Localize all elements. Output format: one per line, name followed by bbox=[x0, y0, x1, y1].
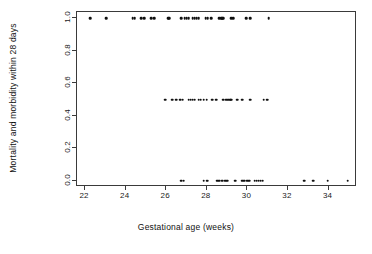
y-axis-title: Mortality and morbidity within 28 days bbox=[8, 23, 18, 172]
y-axis-tick bbox=[72, 82, 76, 83]
data-point bbox=[326, 179, 329, 182]
data-point bbox=[232, 17, 235, 20]
data-point bbox=[215, 98, 218, 101]
data-point bbox=[168, 17, 171, 20]
data-point bbox=[206, 98, 209, 101]
y-axis-tick bbox=[72, 50, 76, 51]
x-axis-tick bbox=[206, 186, 207, 190]
x-axis-tick bbox=[328, 186, 329, 190]
data-point bbox=[105, 17, 108, 20]
data-point bbox=[153, 17, 156, 20]
data-point bbox=[222, 17, 225, 20]
data-point bbox=[347, 179, 350, 182]
x-axis-tick bbox=[84, 186, 85, 190]
data-point bbox=[164, 98, 167, 101]
data-point bbox=[249, 98, 252, 101]
x-axis-tick-label: 28 bbox=[201, 191, 210, 200]
x-axis-tick-label: 34 bbox=[323, 191, 332, 200]
data-point bbox=[267, 17, 270, 20]
data-point bbox=[261, 179, 264, 182]
data-point bbox=[211, 98, 214, 101]
data-point bbox=[210, 17, 213, 20]
x-axis-tick bbox=[165, 186, 166, 190]
y-axis-tick bbox=[72, 180, 76, 181]
data-point bbox=[226, 179, 229, 182]
data-point bbox=[303, 179, 306, 182]
plot-frame bbox=[76, 11, 356, 186]
x-axis-tick-label: 26 bbox=[161, 191, 170, 200]
data-point bbox=[266, 98, 269, 101]
data-point bbox=[193, 98, 196, 101]
data-point bbox=[245, 17, 248, 20]
data-points-layer bbox=[77, 12, 355, 185]
data-point bbox=[89, 17, 92, 20]
data-point bbox=[143, 17, 146, 20]
x-axis-tick bbox=[246, 186, 247, 190]
scatter-plot: 222426283032340.00.20.40.60.81.0 Gestati… bbox=[0, 0, 372, 254]
data-point bbox=[171, 98, 174, 101]
data-point bbox=[207, 179, 210, 182]
y-axis-tick bbox=[72, 17, 76, 18]
data-point bbox=[230, 98, 233, 101]
x-axis-tick-label: 30 bbox=[242, 191, 251, 200]
data-point bbox=[182, 179, 185, 182]
data-point bbox=[241, 98, 244, 101]
y-axis-tick bbox=[72, 147, 76, 148]
data-point bbox=[187, 17, 190, 20]
data-point bbox=[181, 98, 184, 101]
data-point bbox=[236, 98, 239, 101]
data-point bbox=[249, 17, 252, 20]
data-point bbox=[248, 179, 251, 182]
data-point bbox=[234, 179, 237, 182]
x-axis-tick bbox=[125, 186, 126, 190]
data-point bbox=[134, 17, 137, 20]
data-point bbox=[175, 98, 178, 101]
y-axis-tick bbox=[72, 115, 76, 116]
x-axis-tick-label: 32 bbox=[282, 191, 291, 200]
x-axis-tick-label: 22 bbox=[79, 191, 88, 200]
x-axis-tick bbox=[287, 186, 288, 190]
x-axis-title: Gestational age (weeks) bbox=[0, 222, 372, 232]
x-axis-tick-label: 24 bbox=[120, 191, 129, 200]
data-point bbox=[197, 17, 200, 20]
data-point bbox=[312, 179, 315, 182]
